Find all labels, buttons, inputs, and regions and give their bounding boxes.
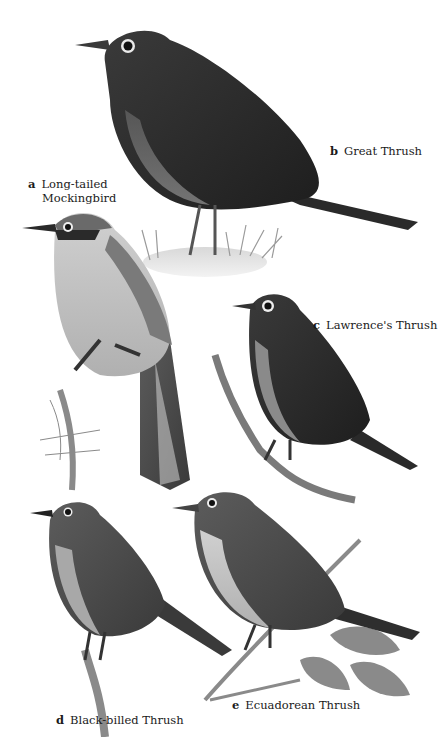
species-letter: e [232,698,239,712]
species-name: Great Thrush [344,144,422,158]
species-name: Long-tailed [41,177,107,191]
species-name: Lawrence's Thrush [326,318,437,332]
species-letter: b [330,144,338,158]
species-letter: d [56,713,64,727]
bird-illustrations [0,0,443,737]
species-letter: c [313,318,320,332]
species-letter: a [28,177,35,191]
label-black-billed-thrush: dBlack-billed Thrush [56,713,184,727]
species-name: Ecuadorean Thrush [245,698,360,712]
label-lawrences-thrush: cLawrence's Thrush [313,318,437,332]
species-name-line2: Mockingbird [28,191,116,205]
species-name: Black-billed Thrush [70,713,184,727]
label-long-tailed-mockingbird: aLong-tailed Mockingbird [28,177,116,205]
illustration-plate: bGreat Thrush aLong-tailed Mockingbird c… [0,0,443,737]
label-great-thrush: bGreat Thrush [330,144,422,158]
label-ecuadorean-thrush: eEcuadorean Thrush [232,698,360,712]
ecuadorean-thrush-illustration [172,492,420,700]
